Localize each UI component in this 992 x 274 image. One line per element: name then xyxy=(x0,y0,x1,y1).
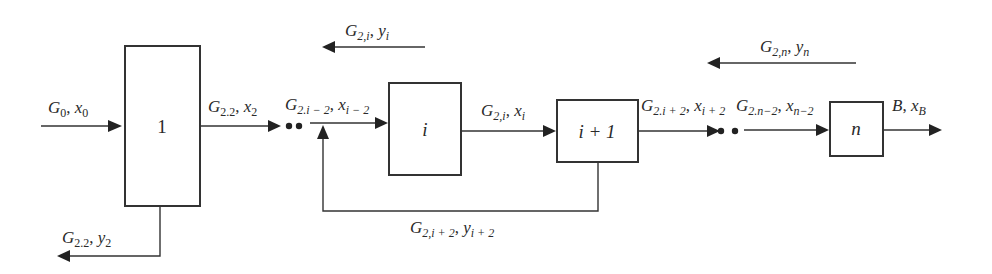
stage-1-label: 1 xyxy=(157,116,167,137)
stage-i-top-arrow xyxy=(322,41,425,53)
arrowhead-right-icon xyxy=(929,124,942,136)
stage-i-box: i xyxy=(389,83,461,175)
stage-i-plus-1-out-label: G2.i + 2, xi + 2 xyxy=(641,96,725,118)
feed-arrow xyxy=(41,120,122,132)
arrowhead-right-icon xyxy=(108,120,122,132)
arrowhead-right-icon xyxy=(543,125,556,137)
process-flow-diagram: 1 i i + 1 n G0, x0 G2.2, x2 G2.2, y2 G2.… xyxy=(0,0,992,274)
recycle-label: G2,i + 2, yi + 2 xyxy=(410,218,494,240)
arrowhead-up-icon xyxy=(317,125,329,139)
stage-i-plus-1-label: i + 1 xyxy=(578,121,615,142)
product-label: B, xB xyxy=(892,96,926,118)
into-stage-n-arrow xyxy=(744,124,829,136)
arrowhead-left-icon xyxy=(707,57,720,69)
stage-i-out-arrow xyxy=(461,125,556,137)
arrowhead-right-icon xyxy=(375,117,388,129)
stage-n-label: n xyxy=(851,118,861,139)
continuation-dot xyxy=(286,123,292,129)
stage-i-label: i xyxy=(422,119,427,140)
into-stage-i-arrow xyxy=(310,117,388,129)
product-arrow xyxy=(883,124,942,136)
arrowhead-right-icon xyxy=(268,120,281,132)
arrowhead-right-icon xyxy=(816,124,829,136)
feed-label: G0, x0 xyxy=(48,98,88,120)
continuation-dot xyxy=(718,128,724,134)
continuation-dot xyxy=(732,128,738,134)
stage-n-top-label: G2,n, yn xyxy=(760,37,809,59)
stage-i-plus-1-out-arrow xyxy=(638,125,738,137)
stage1-out-arrow xyxy=(200,120,302,132)
continuation-dot xyxy=(296,123,302,129)
stage-i-plus-1-box: i + 1 xyxy=(557,100,638,162)
stage1-bottom-label: G2.2, y2 xyxy=(62,228,111,250)
into-stage-n-label: G2.n−2, xn−2 xyxy=(736,96,814,118)
stage-n-box: n xyxy=(830,102,883,156)
into-stage-i-label: G2.i − 2, xi − 2 xyxy=(285,95,369,117)
arrowhead-left-icon xyxy=(57,250,70,262)
arrowhead-left-icon xyxy=(322,41,335,53)
stage-1-box: 1 xyxy=(125,46,200,206)
stage-i-top-label: G2,i, yi xyxy=(345,21,389,43)
stage-i-out-label: G2,i, xi xyxy=(481,101,525,123)
stage1-out-label: G2.2, x2 xyxy=(208,97,257,119)
